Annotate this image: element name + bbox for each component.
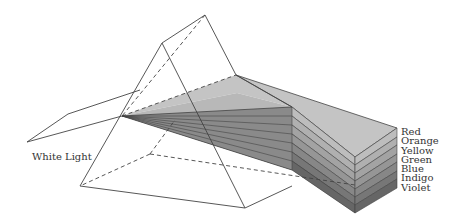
prism-diagram <box>0 0 450 224</box>
spectrum-labels: Red Orange Yellow Green Blue Indigo Viol… <box>401 127 439 192</box>
spectrum-label-violet: Violet <box>401 183 439 192</box>
white-light-label: White Light <box>32 152 92 162</box>
